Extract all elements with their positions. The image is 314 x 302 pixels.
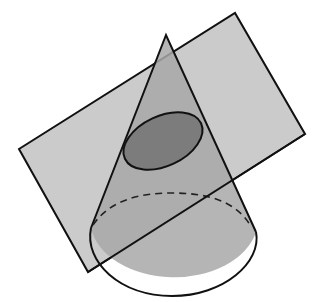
cone-plane-diagram bbox=[0, 0, 314, 302]
diagram-svg bbox=[0, 0, 314, 302]
